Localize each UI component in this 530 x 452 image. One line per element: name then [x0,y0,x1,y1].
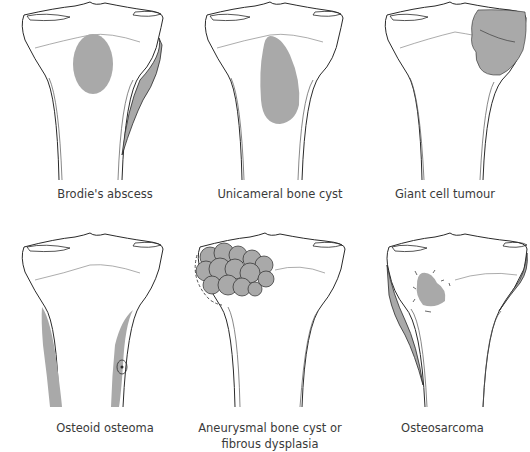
panel-giant-cell-tumour: Giant cell tumour [360,0,530,210]
panel-unicameral-bone-cyst: Unicameral bone cyst [195,0,365,210]
caption-aneurysmal-bone-cyst-line1: Aneurysmal bone cyst or [180,420,360,436]
panel-brodies-abscess: Brodie's abscess [15,0,195,210]
tibia-brodies-abscess-illustration [15,0,195,210]
tibia-unicameral-cyst-illustration [195,0,365,210]
caption-unicameral-bone-cyst: Unicameral bone cyst [195,186,365,202]
tibia-aneurysmal-bone-cyst-illustration [180,225,360,450]
caption-brodies-abscess: Brodie's abscess [15,186,195,202]
caption-aneurysmal-bone-cyst-line2: fibrous dysplasia [180,436,360,452]
caption-osteoid-osteoma: Osteoid osteoma [15,420,195,436]
panel-aneurysmal-bone-cyst: Aneurysmal bone cyst or fibrous dysplasi… [180,225,360,450]
tibia-osteosarcoma-illustration [355,225,530,450]
tibia-osteoid-osteoma-illustration [15,225,195,450]
side-credit-text [0,0,8,110]
multiloculated-lesion [196,243,274,296]
caption-osteosarcoma: Osteosarcoma [355,420,530,436]
panel-osteosarcoma: Osteosarcoma [355,225,530,450]
tibia-giant-cell-tumour-illustration [360,0,530,210]
caption-giant-cell-tumour: Giant cell tumour [360,186,530,202]
panel-osteoid-osteoma: Osteoid osteoma [15,225,195,450]
